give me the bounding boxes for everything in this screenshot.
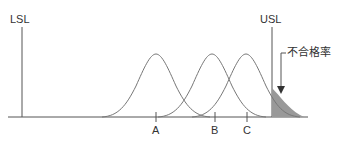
- process-capability-diagram: [0, 0, 347, 145]
- distribution-curve-a: [102, 54, 210, 117]
- usl-label: USL: [260, 14, 281, 25]
- defect-area: [272, 88, 304, 117]
- lsl-label: LSL: [10, 14, 30, 25]
- label-a: A: [152, 125, 159, 136]
- arrow-down-icon: [277, 86, 285, 94]
- label-c: C: [243, 125, 251, 136]
- label-b: B: [211, 125, 218, 136]
- defect-rate-label: 不合格率: [287, 47, 331, 58]
